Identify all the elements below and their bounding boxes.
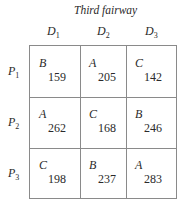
cell-value: 205 [98,70,116,85]
latin-square-grid: B 159 A 205 C 142 A 262 C 168 B 246 C 19… [29,45,177,199]
cell-p2-d3: B 246 [126,97,176,148]
treatment-letter: B [135,107,142,122]
cell-value: 283 [144,172,162,187]
cell-value: 246 [144,121,162,136]
cell-value: 237 [98,172,116,187]
cell-value: 168 [98,121,116,136]
treatment-letter: A [135,158,142,173]
treatment-letter: A [89,56,96,71]
cell-p1-d2: A 205 [80,46,130,97]
treatment-letter: C [89,107,97,122]
cell-value: 159 [48,70,66,85]
column-header-d3: D3 [145,24,158,40]
treatment-letter: B [39,56,46,71]
cell-p3-d3: A 283 [126,148,176,199]
cell-p2-d1: A 262 [30,97,80,148]
cell-p2-d2: C 168 [80,97,130,148]
row-header-p2: P2 [8,115,19,131]
row-header-p1: P1 [8,64,19,80]
cell-p3-d1: C 198 [30,148,80,199]
column-header-d1: D1 [47,24,60,40]
cell-p3-d2: B 237 [80,148,130,199]
table-title: Third fairway [74,4,137,16]
cell-p1-d3: C 142 [126,46,176,97]
column-header-d2: D2 [97,24,110,40]
cell-value: 198 [48,172,66,187]
cell-p1-d1: B 159 [30,46,80,97]
treatment-letter: C [39,158,47,173]
cell-value: 142 [144,70,162,85]
treatment-letter: C [135,56,143,71]
row-header-p3: P3 [8,166,19,182]
cell-value: 262 [48,121,66,136]
treatment-letter: A [39,107,46,122]
treatment-letter: B [89,158,96,173]
